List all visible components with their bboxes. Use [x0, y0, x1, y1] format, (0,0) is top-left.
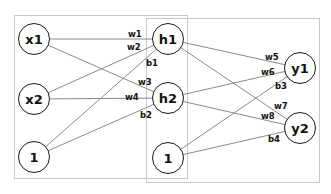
edge-x2-h2 [34, 98, 168, 99]
node-label: h2 [159, 91, 177, 106]
edge-label-b1: b1 [146, 59, 158, 68]
node-x2: x2 [18, 83, 50, 115]
node-h1: h1 [152, 23, 184, 55]
node-h2: h2 [152, 82, 184, 114]
edge-h1-y1 [168, 39, 300, 68]
node-bias1: 1 [18, 141, 50, 173]
node-label: x2 [25, 92, 42, 107]
edge-label-w5: w5 [265, 53, 279, 62]
edge-label-w1: w1 [128, 30, 142, 39]
edge-label-w4: w4 [125, 93, 139, 102]
edge-bias1-h2 [34, 98, 168, 157]
node-y2: y2 [284, 112, 316, 144]
edge-bias2-y2 [168, 128, 300, 158]
edge-label-w2: w2 [127, 43, 141, 52]
edge-label-w3: w3 [138, 78, 152, 87]
neural-network-diagram: w1w2b1w3w4b2w5w6b3w7w8b4 x1x21h1h21y1y2 [0, 0, 331, 194]
edge-label-w8: w8 [261, 112, 275, 121]
edge-label-b2: b2 [140, 111, 152, 120]
edge-label-w6: w6 [261, 68, 275, 77]
node-x1: x1 [18, 23, 50, 55]
edge-label-w7: w7 [274, 102, 288, 111]
node-label: 1 [29, 150, 38, 165]
node-label: x1 [25, 32, 42, 47]
node-y1: y1 [284, 52, 316, 84]
node-bias2: 1 [152, 142, 184, 174]
edge-label-b4: b4 [268, 135, 280, 144]
node-label: y2 [291, 121, 309, 136]
edge-label-b3: b3 [275, 82, 287, 91]
node-label: y1 [291, 61, 309, 76]
node-label: h1 [159, 32, 177, 47]
node-label: 1 [163, 151, 172, 166]
